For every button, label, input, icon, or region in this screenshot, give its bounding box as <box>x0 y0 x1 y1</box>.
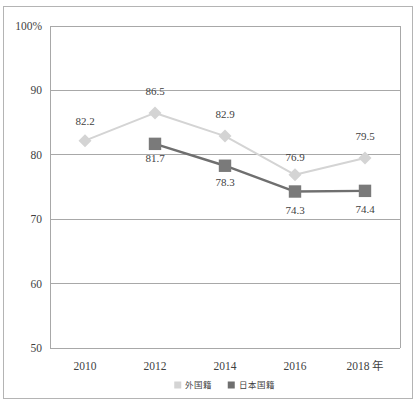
data-point-marker <box>149 138 161 150</box>
x-axis-tick-label: 2018 年 <box>347 359 384 372</box>
y-axis-tick-label: 90 <box>31 84 43 96</box>
y-axis-tick-label: 50 <box>31 342 43 354</box>
legend-swatch-1 <box>228 382 235 389</box>
y-axis-tick-label: 80 <box>31 149 43 161</box>
data-point-label: 76.9 <box>285 151 305 163</box>
data-point-marker <box>219 160 231 172</box>
plot-area: 5060708090100%20102012201420162018 年82.2… <box>0 0 418 413</box>
x-axis-tick-label: 2012 <box>144 360 167 372</box>
data-point-marker <box>289 185 301 197</box>
data-point-label: 82.9 <box>215 108 235 120</box>
data-point-marker <box>149 106 162 119</box>
y-axis-tick-label: 60 <box>31 278 43 290</box>
data-point-label: 81.7 <box>145 152 165 164</box>
line-chart: 5060708090100%20102012201420162018 年82.2… <box>0 0 418 413</box>
x-axis-tick-label: 2010 <box>74 360 97 372</box>
data-point-marker <box>359 152 372 165</box>
data-point-label: 78.3 <box>215 176 235 188</box>
chart-page: 5060708090100%20102012201420162018 年82.2… <box>0 0 418 413</box>
data-point-marker <box>219 130 232 143</box>
x-axis-tick-label: 2014 <box>214 360 237 372</box>
data-point-label: 74.3 <box>285 204 305 216</box>
data-point-label: 74.4 <box>355 203 375 215</box>
data-point-marker <box>289 168 302 181</box>
y-axis-tick-label: 70 <box>31 213 43 225</box>
legend-label-1: 日本国籍 <box>239 380 275 390</box>
legend-swatch-0 <box>174 382 181 389</box>
data-point-label: 79.5 <box>355 130 375 142</box>
data-point-marker <box>79 134 92 147</box>
y-axis-tick-label: 100% <box>15 20 42 32</box>
data-point-label: 82.2 <box>75 115 94 127</box>
data-point-label: 86.5 <box>145 85 165 97</box>
series-line-1 <box>155 144 365 192</box>
bottom-cropped-caption <box>58 407 418 413</box>
legend-label-0: 外国籍 <box>185 380 212 390</box>
data-point-marker <box>359 185 371 197</box>
x-axis-tick-label: 2016 <box>284 360 307 372</box>
